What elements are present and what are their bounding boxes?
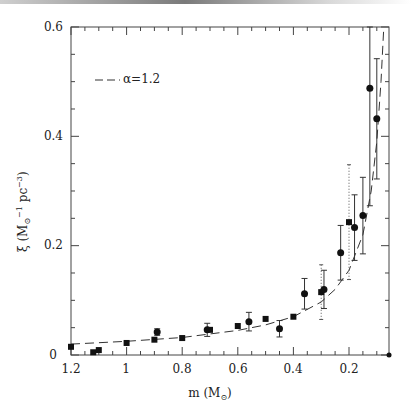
data-points (68, 85, 392, 358)
y-tick-0.2: 0.2 (44, 238, 63, 252)
circle-point (337, 249, 344, 256)
circle-point (373, 115, 380, 122)
legend: α=1.2 (95, 72, 160, 86)
circle-point (245, 318, 252, 325)
y-tick-0: 0 (49, 348, 57, 362)
y-axis-title: ξ (M⊙−1 pc−3) (15, 171, 32, 252)
imf-chart: 0 0.2 0.4 0.6 1.2 1 0.8 0.6 0.4 0.2 m (M… (0, 0, 411, 413)
error-bars (154, 27, 380, 337)
x-tick-1: 1 (122, 362, 130, 376)
x-axis-title: m (M⊙) (188, 386, 232, 402)
square-point (151, 337, 157, 343)
square-point (124, 340, 130, 346)
circle-point (276, 325, 283, 332)
square-point (179, 335, 185, 341)
x-tick-0.6: 0.6 (228, 362, 247, 376)
square-point (96, 347, 102, 353)
square-point (68, 344, 74, 350)
square-point (235, 323, 241, 329)
plot-frame (71, 27, 389, 355)
power-law-fit-line (71, 27, 384, 344)
circle-point (351, 224, 358, 231)
y-tick-0.6: 0.6 (44, 20, 63, 34)
circle-point (154, 329, 161, 336)
square-point (318, 289, 324, 295)
legend-label: α=1.2 (123, 72, 160, 86)
square-point (90, 349, 96, 355)
x-tick-1.2: 1.2 (61, 362, 80, 376)
y-tick-0.4: 0.4 (44, 129, 63, 143)
square-point (290, 314, 296, 320)
circle-point (387, 353, 392, 358)
x-tick-0.2: 0.2 (339, 362, 358, 376)
x-tick-0.8: 0.8 (172, 362, 191, 376)
square-point (263, 316, 269, 322)
square-point (346, 219, 352, 225)
axis-ticks (71, 27, 389, 355)
circle-point (301, 290, 308, 297)
circle-point (366, 85, 373, 92)
square-point (207, 327, 213, 333)
x-tick-0.4: 0.4 (283, 362, 302, 376)
circle-point (359, 212, 366, 219)
